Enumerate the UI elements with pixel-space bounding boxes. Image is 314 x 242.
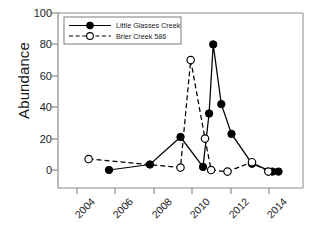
x-tick-label-2004: 2004 [73,196,97,220]
x-tick-label-2006: 2006 [111,196,135,220]
x-tick-label-2008: 2008 [150,196,174,220]
x-tick-label-2012: 2012 [227,196,251,220]
x-axis-tick-labels: 2004 2006 2008 2010 2012 2014 [0,0,314,242]
x-tick-label-2010: 2010 [188,196,212,220]
abundance-line-chart: Abundance 100 80 60 40 20 0 2004 2006 20… [0,0,314,242]
x-tick-label-2014: 2014 [265,196,289,220]
